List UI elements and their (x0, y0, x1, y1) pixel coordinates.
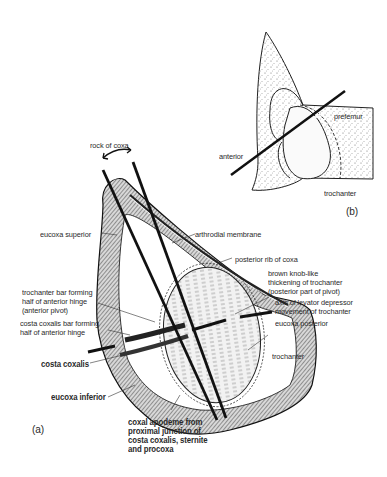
label-line: costa coxalis bar forming (20, 319, 99, 328)
label-prefemur: prefemur (334, 112, 363, 121)
label-line: half of anterior hinge (22, 297, 92, 306)
label-costa-coxalis: costa coxalis (41, 360, 89, 369)
label-trochanter-b: trochanter (324, 189, 356, 198)
label-line: movement of trochanter (275, 307, 353, 316)
label-axis-levator: axis of levator depressor movement of tr… (275, 298, 360, 316)
label-trochanter-bar: trochanter bar forming half of anterior … (22, 288, 99, 315)
label-posterior-rib: posterior rib of coxa (235, 255, 298, 264)
label-eucoxa-superior: eucoxa superior (40, 230, 91, 239)
label-line: thickening of trochanter (268, 278, 342, 287)
label-line: (posterior part of pivot) (268, 287, 342, 296)
label-trochanter-a: trochanter (272, 352, 304, 361)
panel-b-tag: (b) (346, 207, 358, 216)
label-coxal-apodeme: coxal apodeme from proximal junction of … (128, 418, 215, 454)
label-costa-coxalis-bar: costa coxalis bar forming half of anteri… (20, 319, 106, 337)
label-line: half of anterior hinge (20, 328, 99, 337)
label-line: and procoxa (128, 445, 208, 454)
label-line: trochanter bar forming (22, 288, 92, 297)
label-line: (anterior pivot) (22, 306, 92, 315)
label-brown-knob: brown knob-like thickening of trochanter… (268, 269, 349, 296)
label-line: axis of levator depressor (275, 298, 353, 307)
label-eucoxa-posterior: eucoxa posterior (275, 319, 328, 328)
label-line: brown knob-like (268, 269, 342, 278)
panel-a-tag: (a) (32, 425, 44, 434)
label-arthrodial-membrane: arthrodial membrane (195, 230, 261, 239)
label-anterior: anterior (219, 152, 243, 161)
label-eucoxa-inferior: eucoxa inferior (51, 393, 106, 402)
label-rock-of-coxa: rock of coxa (90, 141, 129, 150)
